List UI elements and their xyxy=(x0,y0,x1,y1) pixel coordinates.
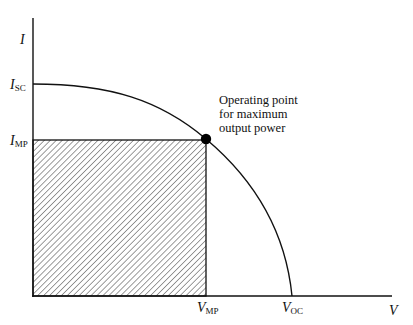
vmp-label: VMP xyxy=(197,300,219,316)
isc-label: ISC xyxy=(9,77,26,93)
voc-label: VOC xyxy=(282,300,303,316)
max-power-point xyxy=(201,134,211,144)
y-axis-label: I xyxy=(19,32,26,47)
operating-point-annotation: Operating point for maximum output power xyxy=(219,93,301,135)
iv-curve-diagram: I V ISC IMP VMP VOC Operating point for … xyxy=(0,0,413,325)
imp-label: IMP xyxy=(9,133,28,149)
x-axis-label: V xyxy=(389,303,399,318)
max-power-rectangle xyxy=(33,140,206,296)
